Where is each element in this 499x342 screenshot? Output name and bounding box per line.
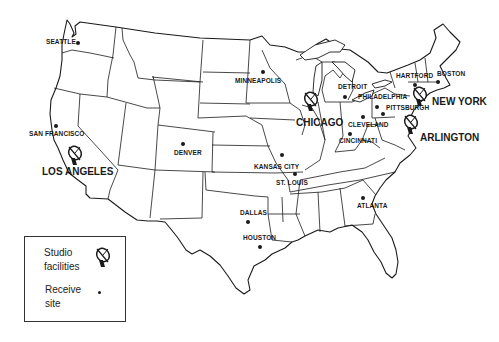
satellite-dish-icon: [64, 144, 84, 166]
receive-site-dot: [54, 124, 58, 128]
city-label-pittsburgh: PITTSBURGH: [386, 105, 429, 112]
city-label-san-francisco: SAN FRANCISCO: [29, 131, 84, 138]
receive-site-dot: [361, 115, 365, 119]
lake-ontario: [372, 80, 392, 88]
city-label-atlanta: ATLANTA: [357, 203, 387, 210]
city-label-minneapolis: MINNEAPOLIS: [235, 78, 281, 85]
city-label-boston: BOSTON: [437, 71, 465, 78]
studio-label-los-angeles: LOS ANGELES: [42, 167, 113, 177]
satellite-dish-icon: [300, 90, 320, 112]
legend-dot-icon: [98, 291, 101, 294]
city-label-hartford: HARTFORD: [396, 73, 433, 80]
receive-site-dot: [413, 83, 417, 87]
receive-site-dot: [375, 105, 379, 109]
receive-site-dot: [258, 245, 262, 249]
receive-site-dot: [76, 41, 80, 45]
receive-site-dot: [261, 70, 265, 74]
lake-huron: [332, 62, 355, 82]
city-label-seattle: SEATTLE: [46, 39, 76, 46]
receive-site-dot: [246, 220, 250, 224]
city-label-denver: DENVER: [174, 150, 202, 157]
receive-site-dot: [348, 132, 352, 136]
city-label-cleveland: CLEVELAND: [348, 122, 389, 129]
studio-label-arlington: ARLINGTON: [420, 133, 479, 143]
receive-site-dot: [343, 95, 347, 99]
city-label-st-louis: ST. LOUIS: [276, 180, 308, 187]
city-label-houston: HOUSTON: [243, 235, 276, 242]
legend-receive-label: Receive site: [45, 283, 81, 311]
legend-studio-label: Studio facilities: [44, 246, 80, 274]
legend: Studio facilities Receive site: [24, 236, 126, 322]
lake-superior: [300, 40, 345, 60]
studio-label-new-york: NEW YORK: [432, 97, 487, 107]
city-label-detroit: DETROIT: [338, 84, 367, 91]
city-label-cincinnati: CINCINNATI: [339, 138, 377, 145]
city-label-kansas-city: KANSAS CITY: [254, 164, 299, 171]
receive-site-dot: [361, 196, 365, 200]
receive-site-dot: [280, 153, 284, 157]
city-label-philadelphia: PHILADELPHIA: [358, 94, 407, 101]
receive-site-dot: [293, 172, 297, 176]
satellite-dish-icon: [400, 113, 420, 135]
receive-site-dot: [381, 112, 385, 116]
city-label-dallas: DALLAS: [240, 210, 267, 217]
receive-site-dot: [181, 142, 185, 146]
studio-label-chicago: CHICAGO: [296, 118, 343, 128]
legend-satellite-dish-icon: [92, 246, 112, 268]
receive-site-dot: [436, 80, 440, 84]
